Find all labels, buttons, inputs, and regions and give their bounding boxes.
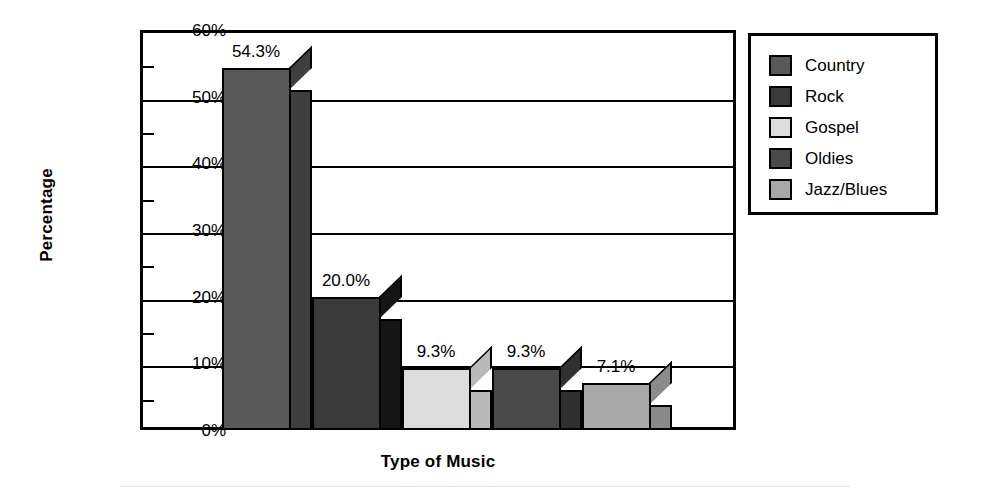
legend-swatch-gospel	[769, 117, 792, 138]
gridline-30	[143, 233, 733, 235]
scan-artifact	[120, 486, 850, 487]
y-tick-label-0: 0%	[136, 422, 226, 439]
minor-tick-55	[143, 66, 154, 68]
y-tick-label-10: 10%	[136, 355, 226, 372]
plot-area	[140, 30, 736, 430]
y-tick-label-20: 20%	[136, 289, 226, 306]
minor-tick-45	[143, 133, 154, 135]
minor-tick-25	[143, 266, 154, 268]
gridline-50	[143, 100, 733, 102]
legend-item-gospel: Gospel	[769, 112, 935, 143]
legend-label-rock: Rock	[805, 88, 844, 105]
minor-tick-15	[143, 333, 154, 335]
legend-label-country: Country	[805, 57, 865, 74]
y-tick-label-60: 60%	[136, 22, 226, 39]
legend-label-oldies: Oldies	[805, 150, 853, 167]
y-tick-label-30: 30%	[136, 222, 226, 239]
y-axis-title: Percentage	[37, 135, 57, 295]
legend-item-oldies: Oldies	[769, 143, 935, 174]
legend-swatch-oldies	[769, 148, 792, 169]
legend-label-jazz-blues: Jazz/Blues	[805, 181, 887, 198]
gridline-10	[143, 366, 733, 368]
bar-chart: Percentage 60% 50% 40% 30% 20% 10% 0% 54…	[0, 0, 983, 497]
minor-tick-35	[143, 200, 154, 202]
gridline-20	[143, 300, 733, 302]
y-tick-label-40: 40%	[136, 155, 226, 172]
legend-swatch-country	[769, 55, 792, 76]
legend-item-country: Country	[769, 50, 935, 81]
minor-tick-5	[143, 400, 154, 402]
legend-item-rock: Rock	[769, 81, 935, 112]
legend-swatch-jazz-blues	[769, 179, 792, 200]
x-axis-title: Type of Music	[140, 452, 736, 472]
gridline-40	[143, 166, 733, 168]
legend-label-gospel: Gospel	[805, 119, 859, 136]
legend-swatch-rock	[769, 86, 792, 107]
legend-item-jazz-blues: Jazz/Blues	[769, 174, 935, 205]
y-tick-label-50: 50%	[136, 89, 226, 106]
legend: Country Rock Gospel Oldies Jazz/Blues	[748, 33, 938, 215]
